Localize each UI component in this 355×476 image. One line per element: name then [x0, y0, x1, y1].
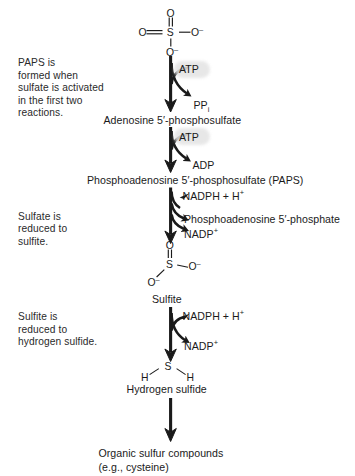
annotation-sulfate-reduction: Sulfate is reduced to sulfite. [18, 211, 143, 249]
nadp-2-symbol: NADP [184, 340, 214, 352]
compound-label-hydrogen-sulfide: Hydrogen sulfide [127, 383, 207, 395]
nadp-1-symbol: NADP [184, 228, 214, 240]
nadp-1-superscript: + [214, 226, 218, 235]
cofactor-label-adp: ADP [193, 159, 215, 171]
sulfate-bottom-oxygen: O– [166, 47, 178, 58]
nadph-1-symbol: NADPH + H [183, 190, 240, 202]
cofactor-label-ppi: PPi [194, 99, 210, 111]
compound-label-paps: Phosphoadenosine 5′-phosphosulfate (PAPS… [87, 174, 303, 186]
compound-label-sulfite: Sulfite [152, 293, 182, 305]
ppi-subscript: i [208, 105, 210, 114]
h2s-sulfur: S [165, 361, 172, 372]
sulfate-bottom-oxygen-symbol: O [166, 47, 174, 58]
sulfite-lower-left-oxygen-charge: – [156, 274, 160, 283]
sulfate-right-oxygen-charge: – [199, 25, 203, 34]
sulfite-top-oxygen: O [166, 240, 174, 251]
sulfite-right-oxygen: O– [189, 261, 201, 272]
cofactor-label-nadph-2: NADPH + H+ [183, 310, 245, 322]
sulfite-sulfur: S [166, 259, 173, 270]
cofactor-label-atp-1: ATP [179, 63, 199, 75]
cofactor-label-atp-2: ATP [179, 131, 199, 143]
nadp-2-superscript: + [214, 338, 218, 347]
annotation-paps: PAPS is formed when sulfate is activated… [18, 57, 143, 120]
sulfite-right-oxygen-charge: – [197, 259, 201, 268]
h2s-right-hydrogen: H [187, 372, 195, 383]
pathway-diagram: O O S O– O– O S O– O– H S H Adenosine 5′… [0, 0, 355, 476]
sulfate-right-oxygen-symbol: O [191, 27, 199, 38]
h2s-left-hydrogen: H [141, 372, 149, 383]
sulfate-sulfur: S [167, 27, 174, 38]
cofactor-label-pap: Phosphoadenosine 5′-phosphate [184, 213, 340, 225]
sulfate-top-oxygen: O [167, 8, 175, 19]
cofactor-label-nadph-1: NADPH + H+ [183, 190, 245, 202]
sulfite-right-oxygen-symbol: O [189, 261, 197, 272]
product-label-line1: Organic sulfur compounds [99, 447, 224, 459]
sulfite-lower-left-oxygen-symbol: O [148, 277, 156, 288]
sulfate-bottom-oxygen-charge: – [174, 45, 178, 54]
nadph-2-symbol: NADPH + H [183, 310, 240, 322]
product-label-line2: (e.g., cysteine) [99, 461, 169, 473]
ppi-symbol: PP [194, 99, 208, 111]
sulfate-right-oxygen: O– [191, 27, 203, 38]
sulfite-lower-left-oxygen: O– [148, 277, 160, 288]
cofactor-label-nadp-1: NADP+ [184, 228, 218, 240]
nadph-2-superscript: + [240, 308, 244, 317]
nadph-1-superscript: + [240, 188, 244, 197]
annotation-sulfite-reduction: Sulfite is reduced to hydrogen sulfide. [18, 311, 150, 349]
cofactor-label-nadp-2: NADP+ [184, 340, 218, 352]
sulfate-left-oxygen: O [139, 27, 147, 38]
